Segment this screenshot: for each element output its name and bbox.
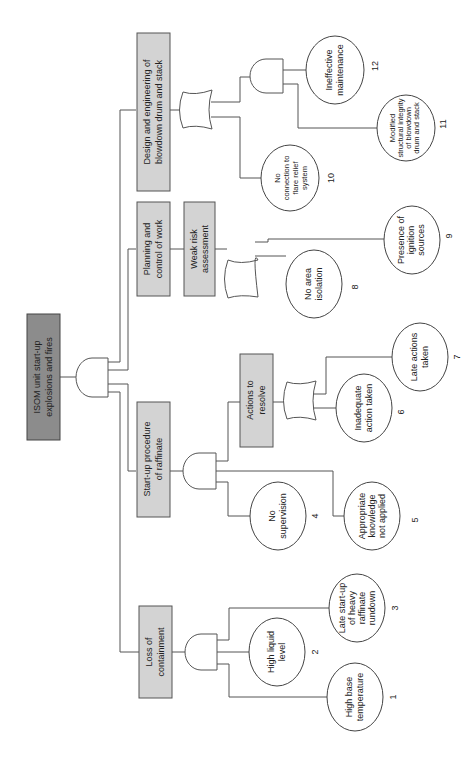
be9-num: 9: [444, 233, 454, 238]
be6-l1: Inadequate: [353, 385, 363, 430]
be8-l1: No area: [303, 268, 313, 300]
be2-l1: High liquid: [266, 631, 276, 673]
startup-line1: Start-up procedure: [142, 421, 152, 496]
be4-l2: supervision: [278, 493, 288, 539]
and-gate-startup: [183, 453, 216, 489]
be9-l1: Presence of: [396, 215, 406, 264]
be5-num: 5: [410, 517, 420, 522]
be1-num: 1: [388, 694, 398, 699]
be10-num: 10: [326, 173, 336, 183]
be5-l1: Appropriate: [357, 493, 367, 540]
be11-num: 11: [438, 119, 448, 128]
event-startup-procedure: Start-up procedure of raffinate: [137, 402, 170, 517]
be10-l2: connection to: [282, 156, 291, 201]
be12-l1: Ineffective: [324, 50, 334, 91]
basic-event-11: Modified structural integrity of blowdow…: [377, 95, 448, 161]
event-actions-resolve: Actions to resolve: [240, 354, 273, 447]
be3-l1: Late start-up: [337, 583, 347, 634]
design-line2: blowdown drum and stack: [154, 59, 164, 164]
be8-l2: isolation: [314, 267, 324, 300]
be7-l2: taken: [420, 346, 430, 368]
be9-l2: ignition: [406, 226, 416, 255]
be11-l4: drum and stack: [412, 102, 421, 154]
event-design-engineering: Design and engineering of blowdown drum …: [137, 33, 170, 191]
planning-line2: control of work: [154, 219, 164, 278]
basic-event-12: Ineffective maintenance 12: [306, 36, 380, 104]
be7-l1: Late actions: [409, 332, 419, 381]
and-gate-design: [250, 59, 283, 93]
be4-l1: No: [267, 510, 277, 522]
actions-line1: Actions to: [245, 380, 255, 420]
be7-num: 7: [452, 354, 462, 359]
be10-l4: system: [300, 166, 309, 190]
or-gate-weak: [225, 258, 259, 298]
be3-l4: rundown: [367, 591, 377, 626]
basic-event-5: Appropriate knowledge not applied 5: [344, 482, 420, 550]
be10-l1: No: [273, 173, 282, 183]
be3-l2: of heavy: [347, 590, 357, 625]
basic-event-4: No supervision 4: [250, 482, 320, 550]
basic-event-7: Late actions taken 7: [392, 323, 462, 391]
basic-event-6: Inadequate action taken 6: [336, 374, 406, 442]
loss-line1: Loss of: [144, 637, 154, 667]
be3-l3: raffinate: [357, 592, 367, 624]
be6-num: 6: [396, 409, 406, 414]
be5-l2: knowledge: [367, 494, 377, 537]
or-gate-actions: [284, 381, 317, 420]
be8-num: 8: [350, 284, 360, 289]
design-line1: Design and engineering of: [142, 59, 152, 165]
be3-num: 3: [390, 605, 400, 610]
be1-l1: High base: [344, 677, 354, 718]
basic-event-2: High liquid level 2: [249, 618, 320, 686]
be12-num: 12: [370, 61, 380, 71]
startup-line2: of raffinate: [154, 438, 164, 480]
planning-line1: Planning and: [142, 223, 152, 276]
basic-event-1: High base temperature 1: [327, 663, 398, 731]
basic-event-8: No area isolation 8: [286, 250, 360, 318]
top-event: ISOM unit start-up explosions and fires: [27, 314, 60, 440]
be10-l3: flare relief: [291, 161, 300, 195]
be2-num: 2: [310, 649, 320, 654]
top-event-line2: explosions and fires: [44, 337, 54, 417]
weak-line1: Weak risk: [189, 229, 199, 269]
be1-l2: temperature: [355, 673, 365, 722]
be5-l3: not applied: [377, 494, 387, 538]
basic-event-3: Late start-up of heavy raffinate rundown…: [329, 574, 400, 642]
event-weak-risk: Weak risk assessment: [184, 202, 215, 296]
top-event-line1: ISOM unit start-up: [32, 340, 42, 413]
be2-l2: level: [277, 643, 287, 662]
be12-l2: maintenance: [335, 44, 345, 96]
and-gate-top: [76, 358, 108, 397]
event-loss-containment: Loss of containment: [139, 606, 172, 698]
or-gate-design: [180, 90, 213, 129]
event-planning-control: Planning and control of work: [137, 202, 170, 296]
and-gate-loss: [185, 634, 217, 670]
fault-tree-diagram: ISOM unit start-up explosions and fires …: [0, 0, 474, 762]
basic-event-10: No connection to flare relief system 10: [261, 145, 336, 211]
weak-line2: assessment: [200, 224, 210, 273]
actions-line2: resolve: [257, 385, 267, 414]
loss-line2: containment: [156, 627, 166, 677]
be9-l3: sources: [416, 224, 426, 256]
be4-num: 4: [310, 513, 320, 518]
basic-event-9: Presence of ignition sources 9: [384, 206, 454, 274]
be6-l2: action taken: [364, 384, 374, 433]
